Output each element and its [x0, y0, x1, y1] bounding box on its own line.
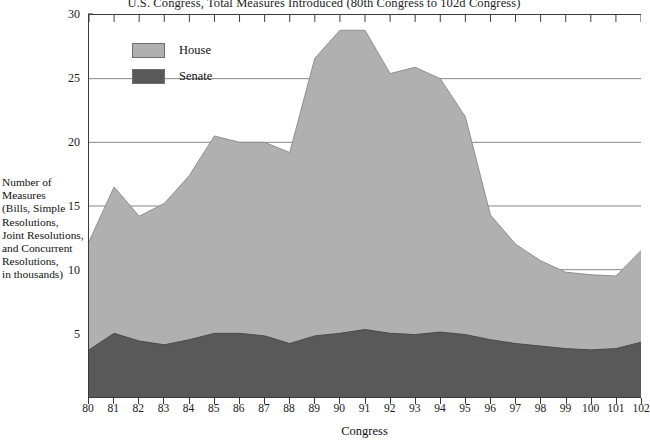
x-axis-tick-label: 97 [510, 402, 522, 414]
x-axis-tick-label: 101 [607, 402, 624, 414]
legend-item-senate: Senate [132, 67, 212, 86]
legend-item-house: House [132, 41, 212, 60]
legend-label-house: House [179, 43, 211, 58]
x-axis-tick-label: 88 [283, 402, 295, 414]
y-axis-title-line: (Bills, Simple [2, 202, 88, 215]
y-axis-tick-label: 5 [50, 327, 80, 342]
x-axis-tick-label: 80 [82, 402, 94, 414]
x-axis-tick-label: 91 [359, 402, 371, 414]
x-axis-tick-label: 102 [632, 402, 649, 414]
x-axis-tick-label: 99 [560, 402, 572, 414]
x-axis-tick-label: 89 [308, 402, 320, 414]
y-axis-title-line: Resolutions, [2, 216, 88, 229]
x-axis-tick-label: 87 [258, 402, 270, 414]
x-axis-tick-label: 100 [582, 402, 599, 414]
chart-title: U.S. Congress, Total Measures Introduced… [0, 0, 648, 11]
x-axis-tick-label: 84 [183, 402, 195, 414]
y-axis-title-line: Number of [2, 176, 88, 189]
x-axis-tick-label: 83 [158, 402, 170, 414]
senate-color-swatch [132, 69, 165, 84]
y-axis-title-line: in thousands) [2, 268, 88, 281]
x-axis-tick-label: 92 [384, 402, 396, 414]
x-axis-tick-label: 94 [434, 402, 446, 414]
x-axis-tick-label: 85 [208, 402, 220, 414]
legend-label-senate: Senate [179, 69, 212, 84]
y-axis-title: Number ofMeasures(Bills, SimpleResolutio… [2, 176, 88, 282]
x-axis-tick-label: 90 [334, 402, 346, 414]
x-axis-tick-label: 95 [459, 402, 471, 414]
x-axis-tick-label: 96 [484, 402, 496, 414]
x-axis-tick-label: 81 [107, 402, 119, 414]
top-axis-tick-marks [89, 15, 641, 22]
y-axis-title-line: Measures [2, 189, 88, 202]
y-axis-title-line: Joint Resolutions, [2, 229, 88, 242]
x-axis-tick-label: 86 [233, 402, 245, 414]
y-axis-tick-label: 20 [50, 135, 80, 150]
x-axis-tick-label: 82 [133, 402, 145, 414]
chart-legend: House Senate [132, 41, 212, 93]
y-axis-title-line: and Concurrent [2, 242, 88, 255]
x-axis-tick-label: 93 [409, 402, 421, 414]
x-axis-tick-label: 98 [535, 402, 547, 414]
house-color-swatch [132, 43, 165, 58]
y-axis-tick-label: 25 [50, 71, 80, 86]
y-axis-tick-label: 30 [50, 7, 80, 22]
x-axis-title: Congress [88, 424, 641, 439]
y-axis-title-line: Resolutions, [2, 255, 88, 268]
